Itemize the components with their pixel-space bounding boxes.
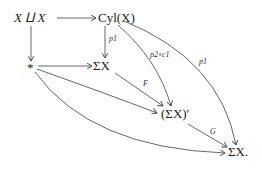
node-suspension-prime: (ΣX)′: [161, 107, 189, 120]
node-point: *: [27, 61, 34, 74]
label-p1-curve: p1: [199, 58, 207, 66]
node-suspension: ΣX: [93, 59, 110, 72]
arrows-layer: [0, 0, 262, 178]
label-p2-c1: p2∘c1: [150, 51, 169, 59]
node-coproduct: X ⨿ X: [14, 11, 45, 24]
node-cyl: Cyl(X): [98, 11, 135, 24]
node-suspension-end: ΣX.: [228, 145, 248, 158]
arrow-suspension-prime-to-suspension-end: [188, 124, 227, 147]
arrow-point-to-suspension-end: [35, 72, 225, 153]
arrow-cyl-to-suspension-prime: [118, 25, 171, 106]
arrow-cyl-to-suspension-end: [124, 21, 236, 145]
arrow-suspension-to-suspension-prime: [115, 73, 163, 106]
arrow-point-to-suspension-prime: [37, 69, 157, 113]
commutative-diagram: X ⨿ X Cyl(X) * ΣX (ΣX)′ ΣX. p1 p2∘c1 p1 …: [0, 0, 262, 178]
label-p1-vertical: p1: [109, 35, 117, 43]
label-F: F: [143, 80, 148, 88]
label-G: G: [210, 128, 216, 136]
